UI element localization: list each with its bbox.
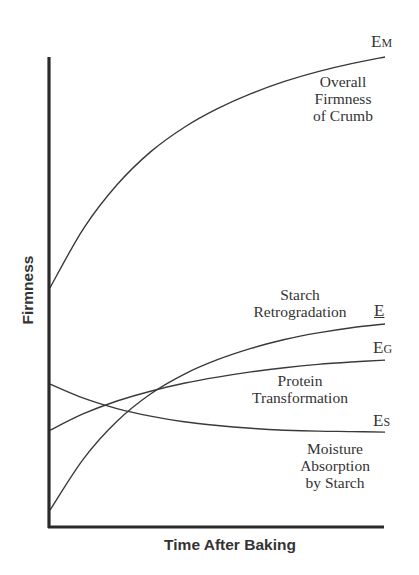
- label-eg: EG: [373, 339, 392, 358]
- annotation-protein-transformation: Protein Transformation: [235, 372, 365, 406]
- y-axis-label: Firmness: [19, 254, 37, 326]
- annotation-starch-retrogradation: Starch Retrogradation: [230, 286, 370, 320]
- label-e: E: [374, 302, 384, 320]
- label-em: EM: [371, 33, 392, 52]
- annotation-overall-firmness: Overall Firmness of Crumb: [298, 73, 388, 124]
- x-axis-label: Time After Baking: [135, 536, 325, 554]
- label-es: ES: [373, 412, 390, 431]
- annotation-moisture-absorption: Moisture Absorption by Starch: [280, 440, 390, 491]
